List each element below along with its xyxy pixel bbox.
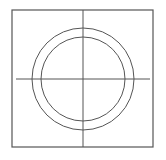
circle-crosshair-diagram [0,0,166,160]
